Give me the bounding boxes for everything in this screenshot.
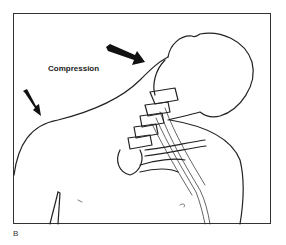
head-outline xyxy=(168,33,253,120)
shoulder-outline xyxy=(14,57,168,175)
compression-arrows xyxy=(23,44,145,116)
panel-label: B xyxy=(13,229,18,238)
compression-label: Compression xyxy=(48,64,99,73)
illustration xyxy=(0,0,286,245)
shoulder-arrow-icon xyxy=(23,89,41,116)
neck-arrow-icon xyxy=(106,44,145,65)
